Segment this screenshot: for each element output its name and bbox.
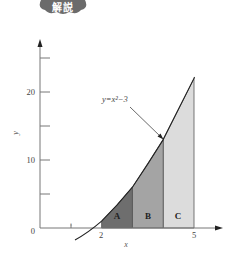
region-a-label: A [114,211,121,221]
region-b-label: B [145,211,151,221]
curve-pointer-line [130,107,161,137]
y-axis-arrowhead-icon [38,39,43,47]
origin-label: 0 [31,226,35,236]
x-axis-arrowhead-icon [215,226,223,231]
curve-equation-label: y=x²−3 [101,94,128,104]
x-axis-label: x [123,240,128,249]
region-c [163,78,194,228]
y-axis-label: y [11,131,20,136]
region-c-label: C [175,211,182,221]
x-tick-label-5: 5 [192,230,196,240]
y-tick-label-10: 10 [27,155,36,165]
y-tick-label-20: 20 [27,87,36,97]
x-tick-label-1: 1 [70,222,73,227]
x-tick-label-2: 2 [99,230,103,240]
area-under-curve-diagram: A B C 20 10 0 1 2 5 x y y=x²−3 [0,0,234,258]
